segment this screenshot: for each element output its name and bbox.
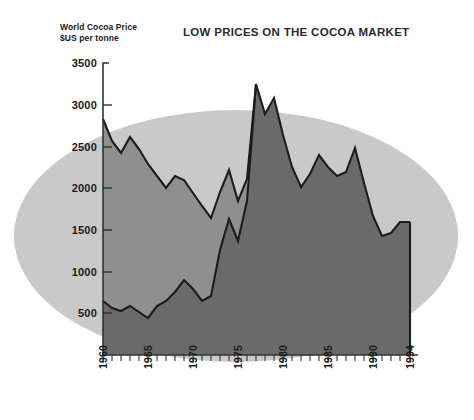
x-tick-label: 1990 [367,345,379,369]
y-tick-label: 1000 [72,266,97,278]
x-tick-label: 1960 [97,345,109,369]
y-tick-label: 2000 [72,182,97,194]
y-axis-caption-line1: World Cocoa Price [60,22,137,32]
x-tick-label: 1985 [322,345,334,369]
chart-svg: 3500 3000 2500 2000 1500 1000 500 [0,0,474,420]
y-tick-label: 500 [78,307,97,319]
x-tick-label: 1965 [142,345,154,369]
x-tick-label: 1994 [404,345,416,369]
y-axis-caption-line2: $US per tonne [60,33,119,43]
x-tick-label: 1975 [232,345,244,369]
y-tick-label: 3000 [72,99,97,111]
y-tick-label: 1500 [72,224,97,236]
y-tick-label: 2500 [72,141,97,153]
y-tick-label: 3500 [72,57,97,69]
page-title: LOW PRICES ON THE COCOA MARKET [183,26,409,38]
x-tick-label: 1980 [277,345,289,369]
x-tick-label: 1970 [187,345,199,369]
cocoa-price-chart: 3500 3000 2500 2000 1500 1000 500 [0,0,474,420]
